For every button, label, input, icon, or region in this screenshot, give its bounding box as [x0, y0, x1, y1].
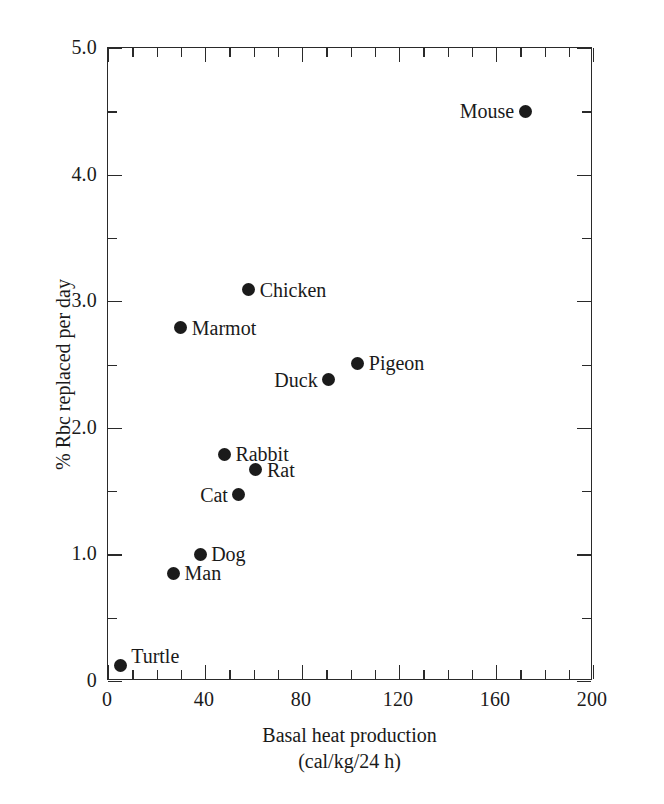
x-axis-tick-bottom: [496, 665, 497, 679]
x-axis-tick-bottom: [205, 665, 206, 679]
y-axis-tick-left: [108, 681, 122, 682]
y-axis-tick-right: [582, 365, 591, 366]
y-axis-tick-right: [577, 175, 591, 176]
data-point-label: Cat: [200, 485, 228, 505]
data-point[interactable]: [167, 567, 180, 580]
x-axis-tick-bottom: [593, 665, 594, 679]
data-point[interactable]: [322, 373, 335, 386]
x-axis-tick-top: [545, 48, 546, 57]
y-axis-tick-right: [582, 618, 591, 619]
data-point-label: Chicken: [260, 280, 327, 300]
data-point[interactable]: [249, 463, 262, 476]
x-axis-tick-top: [351, 48, 352, 57]
x-axis-tick-top: [278, 48, 279, 57]
x-axis-tick-top: [326, 48, 327, 57]
x-axis-tick-bottom: [326, 670, 327, 679]
x-axis-tick-top: [254, 48, 255, 57]
y-axis-tick-right: [577, 428, 591, 429]
x-axis-tick-bottom: [520, 670, 521, 679]
y-axis-tick-left: [108, 554, 122, 555]
x-axis-tick-bottom: [351, 670, 352, 679]
data-point-label: Duck: [274, 370, 317, 390]
y-axis-tick-right: [582, 111, 591, 112]
x-axis-tick-bottom: [157, 670, 158, 679]
x-axis-tick-top: [205, 48, 206, 62]
x-axis-tick-top: [496, 48, 497, 62]
y-axis-tick-left: [108, 48, 122, 49]
y-axis-tick-right: [577, 301, 591, 302]
y-axis-tick-left: [108, 301, 122, 302]
x-axis-tick-top: [302, 48, 303, 62]
x-axis-tick-bottom: [108, 665, 109, 679]
x-axis-tick-bottom: [545, 670, 546, 679]
data-point-label: Man: [184, 563, 221, 583]
x-axis-tick-top: [593, 48, 594, 62]
x-tick-label: 200: [557, 688, 627, 711]
data-point-label: Mouse: [460, 101, 514, 121]
data-point-label: Turtle: [131, 646, 179, 666]
x-axis-tick-bottom: [181, 670, 182, 679]
x-tick-label: 160: [460, 688, 530, 711]
data-point[interactable]: [519, 105, 532, 118]
x-axis-tick-top: [472, 48, 473, 57]
data-point[interactable]: [351, 357, 364, 370]
x-axis-tick-top: [423, 48, 424, 57]
data-point[interactable]: [218, 448, 231, 461]
x-tick-label: 80: [266, 688, 336, 711]
data-point[interactable]: [194, 548, 207, 561]
x-axis-tick-bottom: [302, 665, 303, 679]
x-axis-tick-top: [132, 48, 133, 57]
data-point[interactable]: [242, 283, 255, 296]
y-axis-tick-left: [108, 365, 117, 366]
data-point[interactable]: [114, 659, 127, 672]
scatter-plot-figure: TurtleManDogCatRabbitRatDuckPigeonMarmot…: [0, 0, 664, 804]
plot-area: TurtleManDogCatRabbitRatDuckPigeonMarmot…: [107, 47, 592, 680]
x-tick-label: 120: [363, 688, 433, 711]
x-axis-tick-top: [399, 48, 400, 62]
x-axis-tick-bottom: [569, 670, 570, 679]
y-axis-tick-left: [108, 238, 117, 239]
x-axis-tick-bottom: [278, 670, 279, 679]
x-axis-tick-top: [375, 48, 376, 57]
x-axis-tick-top: [229, 48, 230, 57]
y-axis-title: % Rbc replaced per day: [52, 185, 75, 565]
y-axis-tick-right: [577, 48, 591, 49]
y-tick-label: 5.0: [31, 37, 97, 57]
x-tick-label: 0: [72, 688, 142, 711]
data-point-label: Dog: [211, 544, 245, 564]
x-axis-tick-bottom: [448, 670, 449, 679]
data-point[interactable]: [174, 321, 187, 334]
x-axis-title: Basal heat production (cal/kg/24 h): [107, 722, 592, 775]
y-tick-label: 0: [31, 670, 97, 690]
data-point-label: Rat: [267, 460, 295, 480]
x-axis-tick-top: [520, 48, 521, 57]
x-axis-tick-bottom: [254, 670, 255, 679]
y-axis-tick-left: [108, 618, 117, 619]
x-axis-tick-top: [108, 48, 109, 62]
y-axis-tick-left: [108, 428, 122, 429]
x-axis-tick-bottom: [423, 670, 424, 679]
y-axis-tick-right: [577, 681, 591, 682]
x-axis-tick-bottom: [399, 665, 400, 679]
y-axis-tick-left: [108, 111, 117, 112]
x-axis-tick-bottom: [132, 670, 133, 679]
x-axis-title-line2: (cal/kg/24 h): [107, 748, 592, 774]
y-tick-label: 4.0: [31, 164, 97, 184]
x-axis-tick-top: [157, 48, 158, 57]
x-axis-tick-top: [181, 48, 182, 57]
x-tick-label: 40: [169, 688, 239, 711]
data-point-label: Pigeon: [369, 353, 425, 373]
y-axis-tick-right: [582, 491, 591, 492]
data-point-label: Marmot: [192, 318, 256, 338]
x-axis-tick-bottom: [472, 670, 473, 679]
y-axis-tick-right: [582, 238, 591, 239]
y-axis-tick-right: [577, 554, 591, 555]
x-axis-tick-bottom: [229, 670, 230, 679]
y-axis-tick-left: [108, 491, 117, 492]
data-point[interactable]: [232, 488, 245, 501]
x-axis-title-line1: Basal heat production: [107, 722, 592, 748]
x-axis-tick-bottom: [375, 670, 376, 679]
y-axis-tick-left: [108, 175, 122, 176]
x-axis-tick-top: [569, 48, 570, 57]
x-axis-tick-top: [448, 48, 449, 57]
